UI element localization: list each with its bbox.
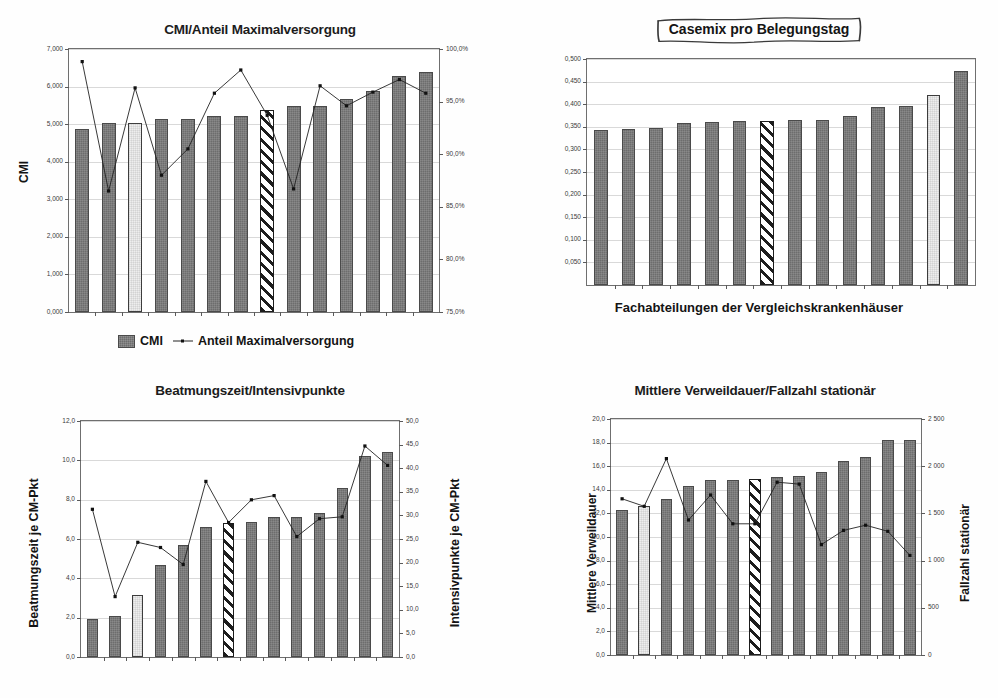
y-tick-label-left: 7,000	[21, 46, 63, 53]
bar-9-solid[interactable]	[816, 120, 830, 285]
x-tick-mark	[753, 285, 754, 289]
y-tick-label-right: 90,0%	[446, 151, 464, 158]
x-tick-mark	[95, 312, 96, 316]
x-tick-mark	[899, 655, 900, 659]
y-tick-label-left: 6,0	[563, 581, 605, 588]
y-tick-label-right: 85,0%	[446, 203, 464, 210]
data-point-marker	[753, 522, 756, 525]
data-point-marker	[81, 60, 84, 63]
y-tick-label-left: 8,0	[33, 496, 75, 503]
x-tick-mark	[700, 655, 701, 659]
y-tick-label-right: 15,0	[406, 583, 419, 590]
data-point-marker	[91, 508, 94, 511]
data-point-marker	[363, 444, 366, 447]
data-point-marker	[136, 541, 139, 544]
tick-mark-right	[439, 49, 443, 50]
y-tick-label-left: 12,0	[563, 510, 605, 517]
bar-6-solid[interactable]	[733, 121, 747, 285]
x-tick-mark	[280, 312, 281, 316]
tick-mark-right	[439, 259, 443, 260]
bar-1-solid[interactable]	[594, 130, 608, 285]
data-point-marker	[227, 521, 230, 524]
x-tick-mark	[947, 285, 948, 289]
tick-mark-right	[921, 513, 925, 514]
x-tick-mark	[104, 657, 105, 661]
data-point-marker	[160, 174, 163, 177]
data-point-marker	[908, 554, 911, 557]
y-tick-label-right: 45,0	[406, 441, 419, 448]
tick-mark-right	[399, 445, 403, 446]
bar-8-solid[interactable]	[788, 120, 802, 285]
x-tick-mark	[228, 312, 229, 316]
bar-10-solid[interactable]	[843, 116, 857, 285]
x-tick-mark	[698, 285, 699, 289]
x-tick-mark	[744, 655, 745, 659]
x-tick-mark	[333, 312, 334, 316]
tick-mark-right	[399, 563, 403, 564]
y-tick-label-left: 2,000	[21, 233, 63, 240]
plot-area-verweildauer: 0,02,04,06,08,010,012,014,016,018,020,00…	[610, 418, 922, 656]
data-point-marker	[159, 546, 162, 549]
bar-4-solid[interactable]	[677, 123, 691, 285]
data-point-marker	[709, 493, 712, 496]
y-tick-label-right: 80,0%	[446, 256, 464, 263]
axis-label-casemix-x: Fachabteilungen der Vergleichskrankenhäu…	[520, 300, 998, 315]
chart-title-casemix-wrap: Casemix pro Belegungstag	[520, 16, 998, 43]
bar-5-solid[interactable]	[705, 122, 719, 285]
x-tick-mark	[354, 657, 355, 661]
tick-mark-right	[399, 586, 403, 587]
chart-title-casemix: Casemix pro Belegungstag	[669, 21, 850, 37]
y-tick-label-left: 12,0	[33, 418, 75, 425]
bar-11-solid[interactable]	[871, 107, 885, 285]
y-tick-label-left: 0,300	[539, 146, 581, 153]
x-tick-mark	[836, 285, 837, 289]
y-tick-label-left: 1,000	[21, 271, 63, 278]
y-tick-label-left: 0,400	[539, 101, 581, 108]
x-tick-mark	[285, 657, 286, 661]
x-tick-mark	[766, 655, 767, 659]
y-tick-label-right: 0	[928, 652, 932, 659]
data-point-marker	[213, 92, 216, 95]
y-tick-label-left: 0,050	[539, 259, 581, 266]
x-tick-mark	[855, 655, 856, 659]
x-tick-mark	[308, 657, 309, 661]
tick-mark-right	[439, 154, 443, 155]
data-point-marker	[842, 529, 845, 532]
bar-14-solid[interactable]	[954, 71, 968, 285]
x-tick-mark	[201, 312, 202, 316]
x-tick-mark	[386, 312, 387, 316]
bar-2-solid[interactable]	[622, 129, 636, 285]
x-tick-mark	[254, 312, 255, 316]
y-tick-label-left: 10,0	[563, 534, 605, 541]
x-tick-mark	[726, 285, 727, 289]
x-tick-mark	[376, 657, 377, 661]
x-tick-mark	[126, 657, 127, 661]
x-tick-mark	[877, 655, 878, 659]
x-tick-mark	[175, 312, 176, 316]
y-tick-label-left: 0,150	[539, 214, 581, 221]
y-tick-label-right: 100,0%	[446, 46, 468, 53]
x-tick-mark	[615, 285, 616, 289]
chart-title-cmi: CMI/Anteil Maximalversorgung	[0, 22, 520, 37]
data-point-marker	[266, 114, 269, 117]
bar-3-solid[interactable]	[649, 128, 663, 285]
data-point-marker	[341, 515, 344, 518]
y-tick-label-right: 2 000	[928, 463, 944, 470]
data-point-marker	[318, 517, 321, 520]
x-tick-mark	[263, 657, 264, 661]
x-tick-mark	[642, 285, 643, 289]
x-tick-mark	[655, 655, 656, 659]
bar-12-solid[interactable]	[899, 106, 913, 285]
bar-13-light[interactable]	[927, 95, 941, 285]
y-tick-label-left: 0,450	[539, 78, 581, 85]
axis-label-fallzahl-right: Fallzahl stationär	[958, 478, 972, 628]
x-tick-mark	[195, 657, 196, 661]
data-point-marker	[114, 595, 117, 598]
x-tick-mark	[413, 312, 414, 316]
data-point-marker	[134, 86, 137, 89]
y-tick-label-right: 10,0	[406, 606, 419, 613]
y-tick-label-left: 0,350	[539, 123, 581, 130]
bar-7-hatched[interactable]	[760, 121, 774, 285]
y-tick-label-right: 75,0%	[446, 309, 464, 316]
y-tick-label-left: 0,100	[539, 236, 581, 243]
